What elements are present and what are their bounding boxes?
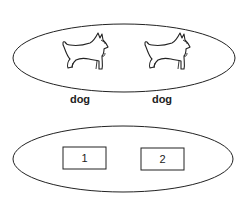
dog-figure-2 (145, 33, 190, 69)
dog-label-1: dog (70, 93, 90, 105)
dog-figure-1 (63, 33, 108, 69)
dog-label-2: dog (152, 93, 172, 105)
scottish-terrier-dog-icon (145, 33, 190, 69)
bottom-set-ellipse (13, 126, 233, 192)
scottish-terrier-dog-icon (63, 33, 108, 69)
top-set-ellipse (13, 24, 235, 92)
number-box-1-label: 1 (81, 152, 87, 164)
diagram-canvas: dog dog 1 2 (0, 0, 246, 204)
number-box-2-label: 2 (159, 153, 165, 165)
diagram-svg: dog dog 1 2 (0, 0, 246, 204)
